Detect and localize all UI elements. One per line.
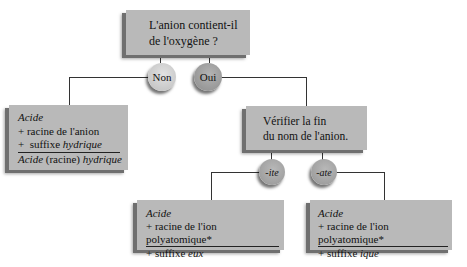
ique-title: Acide xyxy=(318,207,452,220)
oui-circle: Oui xyxy=(194,63,222,91)
connector-ite-horizontal xyxy=(211,172,261,173)
connector-non-horizontal xyxy=(69,77,149,78)
ate-circle: -ate xyxy=(311,159,337,185)
hydrique-title: Acide xyxy=(18,111,128,125)
check-line-2: du nom de l'anion. xyxy=(263,129,367,144)
ite-label: -ite xyxy=(265,167,278,178)
ate-label: -ate xyxy=(316,167,332,178)
oui-label: Oui xyxy=(200,71,217,83)
ique-line-2: + suffixe ique xyxy=(318,247,452,260)
hydrique-line-2: + suffixe hydrique xyxy=(18,138,120,153)
ite-circle: -ite xyxy=(259,159,285,185)
ique-rule-box: Acide + racine de l'ion polyatomique* + … xyxy=(310,200,452,250)
connector-ate-horizontal xyxy=(336,172,385,173)
connector-question-oui xyxy=(209,55,210,63)
connector-ite-vertical xyxy=(211,172,212,200)
question-line-2: de l'oxygène ? xyxy=(149,33,250,49)
non-circle: Non xyxy=(148,63,176,91)
eux-rule-box: Acide + racine de l'ion polyatomique* + … xyxy=(137,200,284,250)
connector-non-vertical xyxy=(69,77,70,105)
check-line-1: Vérifier la fin xyxy=(263,114,367,129)
hydrique-formula: Acide (racine) hydrique xyxy=(18,153,128,167)
check-ending-box: Vérifier la fin du nom de l'anion. xyxy=(246,106,367,150)
connector-oui-vertical xyxy=(306,77,307,106)
hydrique-rule-box: Acide + racine de l'anion + suffixe hydr… xyxy=(9,105,128,170)
non-label: Non xyxy=(153,71,172,83)
question-line-1: L'anion contient-il xyxy=(149,17,250,33)
connector-question-non xyxy=(160,55,161,63)
eux-line-1: + racine de l'ion polyatomique* xyxy=(146,220,279,247)
eux-line-2: + suffixe eux xyxy=(146,247,284,260)
hydrique-line-1: + racine de l'anion xyxy=(18,125,128,139)
question-box: L'anion contient-il de l'oxygène ? xyxy=(126,10,250,55)
eux-title: Acide xyxy=(146,207,284,220)
connector-oui-horizontal xyxy=(218,77,307,78)
ique-line-1: + racine de l'ion polyatomique* xyxy=(318,220,448,247)
connector-ate-vertical xyxy=(384,172,385,200)
